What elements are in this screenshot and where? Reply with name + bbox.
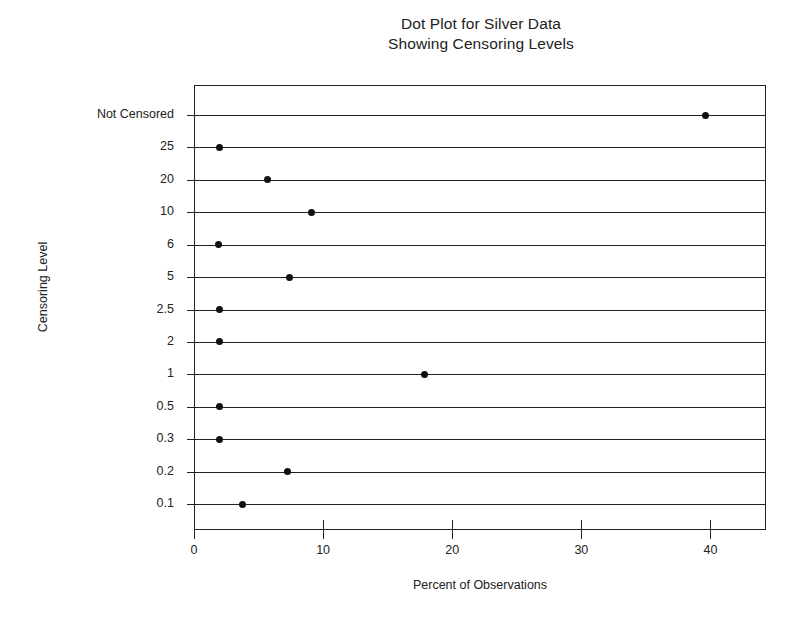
data-point bbox=[216, 144, 223, 151]
y-axis-tick-label: 1 bbox=[167, 366, 174, 380]
x-axis-tick bbox=[581, 530, 582, 539]
category-row-line bbox=[195, 310, 765, 311]
y-axis-tick-label: 6 bbox=[167, 237, 174, 251]
x-axis-tick-label: 10 bbox=[316, 543, 330, 557]
category-row-line bbox=[195, 374, 765, 375]
y-axis-tick-label: 0.5 bbox=[157, 399, 174, 413]
category-row-line bbox=[195, 342, 765, 343]
data-point bbox=[308, 209, 315, 216]
x-axis-title: Percent of Observations bbox=[194, 578, 766, 592]
category-row-line bbox=[195, 180, 765, 181]
category-row-line bbox=[195, 472, 765, 473]
x-axis-tick-label: 0 bbox=[191, 543, 198, 557]
y-axis-tick bbox=[187, 277, 195, 278]
category-row-line bbox=[195, 115, 765, 116]
y-axis-tick bbox=[187, 245, 195, 246]
y-axis-tick bbox=[187, 115, 195, 116]
category-row-line bbox=[195, 407, 765, 408]
chart-figure: Dot Plot for Silver Data Showing Censori… bbox=[0, 0, 810, 629]
data-point bbox=[239, 501, 246, 508]
x-axis-tick bbox=[323, 530, 324, 539]
y-axis-tick-label: 10 bbox=[160, 204, 174, 218]
category-row-line bbox=[195, 504, 765, 505]
y-axis-tick bbox=[187, 310, 195, 311]
y-axis-tick bbox=[187, 472, 195, 473]
y-axis-tick bbox=[187, 180, 195, 181]
x-axis-tick bbox=[194, 530, 195, 539]
y-axis-tick-label: 25 bbox=[160, 139, 174, 153]
y-axis-tick-label: 20 bbox=[160, 172, 174, 186]
data-point bbox=[264, 176, 271, 183]
data-point bbox=[216, 436, 223, 443]
x-axis-tick-top bbox=[581, 520, 582, 530]
plot-area bbox=[194, 85, 766, 530]
data-point bbox=[216, 403, 223, 410]
data-point bbox=[215, 241, 222, 248]
y-axis-tick-label: 2 bbox=[167, 334, 174, 348]
y-axis-tick bbox=[187, 374, 195, 375]
y-axis-tick-label: 0.2 bbox=[157, 464, 174, 478]
y-axis-tick bbox=[187, 407, 195, 408]
y-axis-tick bbox=[187, 439, 195, 440]
data-point bbox=[216, 338, 223, 345]
category-row-line bbox=[195, 439, 765, 440]
data-point bbox=[286, 274, 293, 281]
chart-title-line-2: Showing Censoring Levels bbox=[195, 34, 767, 54]
x-axis-tick-top bbox=[323, 520, 324, 530]
data-point bbox=[216, 306, 223, 313]
x-axis-tick-label: 40 bbox=[704, 543, 718, 557]
y-axis-tick-labels: Not Censored252010652.5210.50.30.20.1 bbox=[0, 85, 186, 530]
y-axis-tick bbox=[187, 504, 195, 505]
x-axis-tick-top bbox=[194, 520, 195, 530]
y-axis-tick bbox=[187, 342, 195, 343]
y-axis-tick-label: Not Censored bbox=[97, 107, 174, 121]
y-axis-tick bbox=[187, 147, 195, 148]
category-row-line bbox=[195, 277, 765, 278]
y-axis-tick-label: 0.1 bbox=[157, 496, 174, 510]
chart-title: Dot Plot for Silver Data Showing Censori… bbox=[195, 14, 767, 54]
x-axis-tick-top bbox=[452, 520, 453, 530]
y-axis-tick-label: 0.3 bbox=[157, 431, 174, 445]
x-axis-tick bbox=[710, 530, 711, 539]
data-point bbox=[421, 371, 428, 378]
data-point bbox=[284, 468, 291, 475]
category-row-line bbox=[195, 147, 765, 148]
category-row-line bbox=[195, 245, 765, 246]
x-axis-tick-top bbox=[710, 520, 711, 530]
y-axis-tick-label: 2.5 bbox=[157, 302, 174, 316]
y-axis-tick bbox=[187, 212, 195, 213]
x-axis-tick bbox=[452, 530, 453, 539]
data-point bbox=[702, 112, 709, 119]
y-axis-tick-label: 5 bbox=[167, 269, 174, 283]
chart-title-line-1: Dot Plot for Silver Data bbox=[195, 14, 767, 34]
x-axis-tick-label: 30 bbox=[574, 543, 588, 557]
x-axis-tick-label: 20 bbox=[445, 543, 459, 557]
category-row-line bbox=[195, 212, 765, 213]
